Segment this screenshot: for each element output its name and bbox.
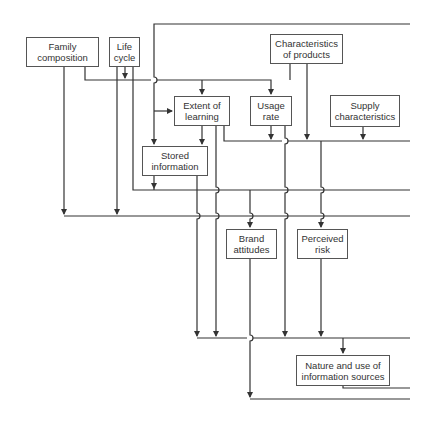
box-life-cycle: Life cycle [109, 37, 140, 67]
box-stored-information: Stored information [142, 146, 208, 176]
box-perceived-risk: Perceived risk [297, 229, 348, 259]
box-usage-rate: Usage rate [250, 96, 292, 126]
box-nature-and-use-of-information-sources: Nature and use of information sources [296, 355, 390, 386]
box-characteristics-of-products: Characteristics of products [270, 34, 343, 64]
box-supply-characteristics: Supply characteristics [330, 95, 400, 127]
box-family-composition: Family composition [26, 37, 99, 67]
box-brand-attitudes: Brand attitudes [226, 229, 277, 259]
box-extent-of-learning: Extent of learning [174, 96, 230, 126]
